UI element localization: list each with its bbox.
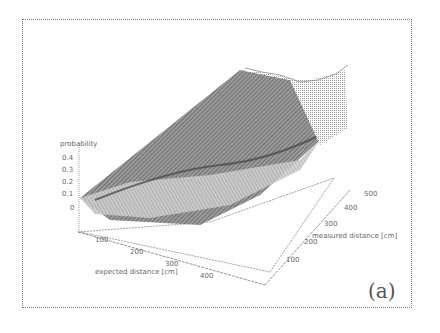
y-tick: 500 — [364, 190, 377, 198]
z-tick: 0.3 — [62, 166, 73, 174]
z-tick: 0 — [70, 204, 74, 212]
y-axis-label: measured distance [cm] — [312, 232, 397, 240]
x-axis-label: expected distance [cm] — [95, 268, 178, 276]
surface-plot: probability 0.4 0.3 0.2 0.1 0 100 200 30… — [0, 0, 440, 333]
x-tick: 100 — [95, 236, 108, 244]
z-tick: 0.4 — [62, 154, 74, 162]
z-axis-label: probability — [60, 140, 97, 148]
z-tick: 0.2 — [62, 178, 73, 186]
y-tick: 300 — [324, 220, 337, 228]
panel-label: (a) — [368, 279, 396, 303]
y-tick: 100 — [286, 256, 299, 264]
x-tick: 300 — [165, 260, 178, 268]
y-tick: 400 — [344, 204, 357, 212]
x-tick: 200 — [130, 248, 143, 256]
z-tick: 0.1 — [62, 190, 73, 198]
x-tick: 400 — [200, 272, 213, 280]
